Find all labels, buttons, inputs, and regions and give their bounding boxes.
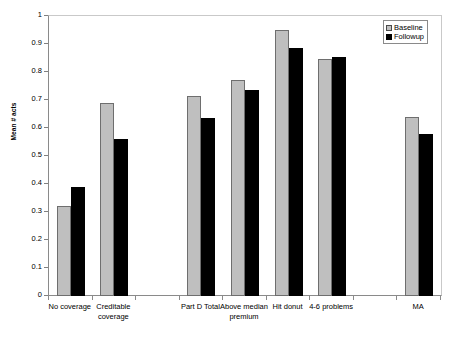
y-axis-tick-label: 1 [16, 11, 42, 19]
bar-baseline [57, 206, 71, 296]
y-axis-tick-label: 0.6 [16, 123, 42, 131]
legend-label: Followup [394, 32, 424, 41]
y-axis-tick-label: 0.7 [16, 95, 42, 103]
bar-followup [332, 57, 346, 296]
bar-baseline [275, 30, 289, 296]
legend-item: Followup [386, 32, 424, 41]
x-axis-tick-mark [266, 296, 267, 300]
y-axis-tick-label: 0.3 [16, 207, 42, 215]
x-axis-tick-mark [92, 296, 93, 300]
y-axis-tick-label: 0.9 [16, 39, 42, 47]
y-axis-tick-label: 0.5 [16, 151, 42, 159]
bar-group [180, 16, 224, 296]
x-axis-tick-mark [48, 296, 49, 300]
x-axis-category-labels: No coverageCreditable coveragePart D Tot… [48, 302, 442, 344]
bar-followup [289, 48, 303, 296]
bar-group [223, 16, 267, 296]
y-axis-tick-label: 0 [16, 291, 42, 299]
chart-legend: BaselineFollowup [383, 20, 428, 44]
bar-group [267, 16, 311, 296]
x-axis-tick-mark [440, 296, 441, 300]
x-axis-tick-mark [309, 296, 310, 300]
bar-followup [245, 90, 259, 296]
y-axis-tick-labels: 00.10.20.30.40.50.60.70.80.91 [16, 15, 42, 296]
bar-group [49, 16, 93, 296]
x-axis-category-label: Creditable coverage [84, 302, 144, 322]
x-axis-category-label: MA [388, 302, 448, 312]
bar-baseline [187, 96, 201, 296]
bar-group [354, 16, 398, 296]
bar-baseline [318, 59, 332, 296]
x-axis-tick-mark [222, 296, 223, 300]
bar-followup [201, 118, 215, 296]
x-axis-tick-mark [396, 296, 397, 300]
bar-baseline [100, 103, 114, 296]
bar-group [93, 16, 137, 296]
bar-baseline [231, 80, 245, 296]
bar-followup [419, 134, 433, 296]
y-axis-tick-label: 0.1 [16, 263, 42, 271]
legend-label: Baseline [394, 23, 423, 32]
x-axis-category-label: 4-6 problems [301, 302, 361, 312]
x-axis-tick-mark [135, 296, 136, 300]
legend-swatch-baseline [386, 25, 392, 31]
x-axis-tick-marks [48, 296, 442, 300]
legend-swatch-followup [386, 34, 392, 40]
bar-baseline [405, 117, 419, 296]
bar-group [397, 16, 441, 296]
y-axis-tick-label: 0.8 [16, 67, 42, 75]
bar-followup [71, 187, 85, 296]
bars-container [49, 16, 441, 296]
bar-group [310, 16, 354, 296]
bar-group [136, 16, 180, 296]
y-axis-tick-label: 0.4 [16, 179, 42, 187]
bar-chart: Mean # acts 00.10.20.30.40.50.60.70.80.9… [0, 0, 450, 344]
legend-item: Baseline [386, 23, 424, 32]
x-axis-tick-mark [353, 296, 354, 300]
y-axis-tick-label: 0.2 [16, 235, 42, 243]
x-axis-tick-mark [179, 296, 180, 300]
bar-followup [114, 139, 128, 296]
